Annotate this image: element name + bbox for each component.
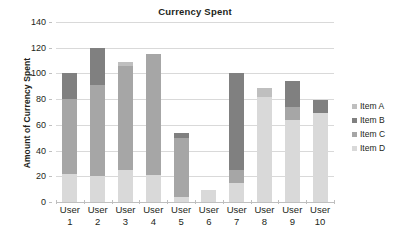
bar-group[interactable]	[90, 22, 105, 202]
x-axis-label-line: User	[84, 204, 112, 216]
bar-segment[interactable]	[257, 88, 272, 97]
legend-swatch-icon	[352, 146, 357, 151]
bar-segment[interactable]	[313, 113, 328, 202]
chart-container: Currency Spent Amount of Currency Spent …	[0, 0, 401, 250]
x-tick-mark	[84, 200, 85, 204]
legend-swatch-icon	[352, 104, 357, 109]
x-axis-label-line: 4	[139, 216, 167, 228]
y-tick-mark-40	[49, 151, 52, 152]
x-axis-label-line: User	[278, 204, 306, 216]
legend-item[interactable]: Item B	[352, 113, 401, 127]
x-axis-label-line: 5	[167, 216, 195, 228]
x-axis-labels: User1User2User3User4User5User6User7User8…	[56, 204, 334, 244]
bar-segment[interactable]	[90, 85, 105, 176]
bar-group[interactable]	[257, 22, 272, 202]
bar-segment[interactable]	[229, 170, 244, 183]
x-axis-label: User5	[167, 204, 195, 228]
y-tick-mark-0	[49, 202, 52, 203]
bar-segment[interactable]	[229, 183, 244, 202]
chart-legend: Item AItem BItem CItem D	[352, 99, 401, 155]
y-tick-label-20: 20	[36, 171, 46, 181]
bar-segment[interactable]	[90, 48, 105, 85]
x-axis-label: User2	[84, 204, 112, 228]
y-tick-label-80: 80	[36, 94, 46, 104]
legend-label: Item D	[360, 143, 385, 153]
bar-group[interactable]	[146, 22, 161, 202]
bar-segment[interactable]	[313, 100, 328, 113]
x-tick-mark	[195, 200, 196, 204]
y-tick-label-120: 120	[31, 43, 46, 53]
y-tick-label-100: 100	[31, 68, 46, 78]
x-tick-mark	[278, 200, 279, 204]
x-axis-label: User9	[278, 204, 306, 228]
bar-segment[interactable]	[146, 54, 161, 175]
bar-segment[interactable]	[229, 73, 244, 169]
x-axis-label-line: 10	[306, 216, 334, 228]
plot-area	[56, 22, 334, 202]
x-axis-label: User4	[139, 204, 167, 228]
legend-label: Item A	[360, 101, 384, 111]
x-axis-label: User8	[251, 204, 279, 228]
x-axis-label: User10	[306, 204, 334, 228]
legend-label: Item C	[360, 129, 385, 139]
bar-group[interactable]	[118, 22, 133, 202]
x-axis-label-line: User	[195, 204, 223, 216]
legend-swatch-icon	[352, 132, 357, 137]
bar-segment[interactable]	[90, 176, 105, 202]
bar-segment[interactable]	[62, 73, 77, 99]
bar-segment[interactable]	[285, 120, 300, 202]
bar-segment[interactable]	[118, 66, 133, 170]
x-tick-mark	[334, 200, 335, 204]
bar-segment[interactable]	[118, 170, 133, 202]
bar-segment[interactable]	[62, 174, 77, 202]
x-axis-label-line: 6	[195, 216, 223, 228]
bar-segment[interactable]	[146, 175, 161, 202]
x-axis-label-line: User	[139, 204, 167, 216]
x-axis-label-line: User	[306, 204, 334, 216]
bar-segment[interactable]	[62, 99, 77, 174]
x-tick-mark	[251, 200, 252, 204]
legend-item[interactable]: Item A	[352, 99, 401, 113]
x-axis-label-line: 9	[278, 216, 306, 228]
bar-segment[interactable]	[174, 138, 189, 197]
legend-swatch-icon	[352, 118, 357, 123]
bar-segment[interactable]	[201, 190, 216, 202]
x-axis-label-line: User	[56, 204, 84, 216]
bar-segment[interactable]	[174, 133, 189, 138]
y-tick-mark-100	[49, 73, 52, 74]
legend-label: Item B	[360, 115, 385, 125]
bar-segment[interactable]	[285, 107, 300, 120]
x-tick-mark	[112, 200, 113, 204]
legend-item[interactable]: Item C	[352, 127, 401, 141]
y-axis-tick-labels: 020406080100120140	[0, 22, 52, 202]
y-tick-mark-120	[49, 48, 52, 49]
bar-segment[interactable]	[285, 81, 300, 107]
y-tick-label-140: 140	[31, 17, 46, 27]
bar-group[interactable]	[313, 22, 328, 202]
x-axis-label: User1	[56, 204, 84, 228]
bar-group[interactable]	[285, 22, 300, 202]
bar-segment[interactable]	[174, 197, 189, 202]
x-axis-label-line: User	[112, 204, 140, 216]
x-tick-mark	[223, 200, 224, 204]
bar-group[interactable]	[201, 22, 216, 202]
x-axis-label-line: User	[167, 204, 195, 216]
x-axis-label-line: User	[251, 204, 279, 216]
x-tick-mark	[306, 200, 307, 204]
bar-group[interactable]	[174, 22, 189, 202]
x-axis-label-line: User	[223, 204, 251, 216]
x-tick-mark	[167, 200, 168, 204]
chart-title: Currency Spent	[60, 6, 330, 17]
y-tick-label-60: 60	[36, 120, 46, 130]
x-tick-mark	[56, 200, 57, 204]
y-tick-mark-80	[49, 99, 52, 100]
bar-segment[interactable]	[257, 97, 272, 202]
bar-group[interactable]	[62, 22, 77, 202]
bar-group[interactable]	[229, 22, 244, 202]
legend-item[interactable]: Item D	[352, 141, 401, 155]
y-tick-label-0: 0	[41, 197, 46, 207]
bar-segment[interactable]	[118, 62, 133, 66]
x-axis-label-line: 8	[251, 216, 279, 228]
x-axis-label: User7	[223, 204, 251, 228]
x-axis-label-line: 1	[56, 216, 84, 228]
